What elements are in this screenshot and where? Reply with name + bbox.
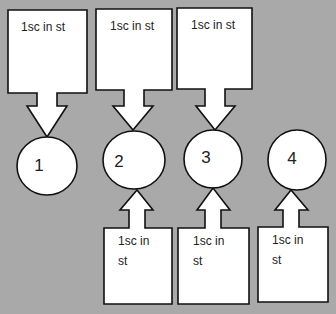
bottom-callout-4-line2: st <box>272 250 281 270</box>
bottom-callout-3-line1: 1sc in <box>193 231 224 251</box>
bottom-callout-3-line2: st <box>193 251 202 271</box>
node-label-4: 4 <box>277 149 307 169</box>
top-callout-1-label: 1sc in st <box>21 17 65 37</box>
bottom-callout-4-line1: 1sc in <box>272 230 303 250</box>
node-label-2: 2 <box>104 152 134 172</box>
node-label-1: 1 <box>24 156 54 176</box>
bottom-callout-2-line1: 1sc in <box>118 231 149 251</box>
top-callout-3-label: 1sc in st <box>191 15 235 35</box>
bottom-callout-2-line2: st <box>118 251 127 271</box>
diagram-canvas: 1sc in st 1sc in st 1sc in st 1 2 3 4 1s… <box>0 0 336 314</box>
node-label-3: 3 <box>191 148 221 168</box>
top-callout-2-label: 1sc in st <box>110 16 154 36</box>
